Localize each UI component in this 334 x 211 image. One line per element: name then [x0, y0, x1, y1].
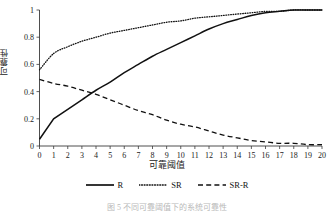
dotted-line-icon — [139, 181, 167, 189]
series-group — [40, 10, 323, 145]
y-axis-title: 可靠性 — [1, 48, 13, 75]
y-tick-label: 0.8 — [24, 33, 34, 42]
legend-label-sr-r: SR-R — [230, 180, 249, 190]
y-tick-label: 1 — [30, 6, 34, 15]
chart-legend: R SR SR-R — [0, 180, 334, 190]
y-axis-group — [37, 10, 40, 146]
x-axis-title: 可靠阈值 — [0, 158, 334, 171]
series-line-sr — [40, 10, 323, 70]
legend-label-r: R — [118, 180, 124, 190]
y-tick-label: 0.2 — [24, 115, 34, 124]
series-line-sr-r — [40, 79, 323, 144]
series-line-r — [40, 10, 323, 139]
figure-caption: 图 5 不同可靠阈值下的系统可靠性 — [0, 201, 334, 211]
figure-container: 00.20.40.60.8101234567891011121314151617… — [0, 0, 334, 211]
y-tick-label: 0.4 — [24, 88, 34, 97]
tick-label-group: 00.20.40.60.8101234567891011121314151617… — [24, 6, 326, 160]
solid-line-icon — [86, 181, 114, 189]
x-axis-group — [40, 146, 323, 149]
legend-item-sr-r[interactable]: SR-R — [198, 180, 249, 190]
y-tick-label: 0.6 — [24, 60, 34, 69]
legend-label-sr: SR — [171, 180, 181, 190]
line-chart-svg: 00.20.40.60.8101234567891011121314151617… — [0, 0, 334, 168]
legend-item-sr[interactable]: SR — [139, 180, 181, 190]
y-tick-label: 0 — [30, 142, 34, 151]
legend-item-r[interactable]: R — [86, 180, 124, 190]
dashed-line-icon — [198, 181, 226, 189]
plot-area: 00.20.40.60.8101234567891011121314151617… — [0, 0, 334, 168]
